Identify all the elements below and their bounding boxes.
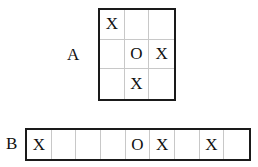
strip-b: X O X X [25,128,251,161]
strip-b-cell-7[interactable] [175,130,200,159]
grid-a: X O X X [98,8,176,101]
grid-a-cell-r1c1[interactable]: X [100,10,125,40]
strip-b-cell-4[interactable] [101,130,126,159]
strip-b-cell-2[interactable] [52,130,77,159]
strip-b-cell-3[interactable] [76,130,101,159]
strip-b-cell-9[interactable] [224,130,249,159]
grid-a-cell-r3c1[interactable] [100,69,125,99]
grid-a-cell-r3c3[interactable] [149,69,174,99]
strip-b-cell-1[interactable]: X [27,130,52,159]
grid-a-cell-r1c3[interactable] [149,10,174,40]
grid-a-cell-r2c1[interactable] [100,40,125,70]
strip-b-cell-5[interactable]: O [126,130,151,159]
grid-a-cell-r3c2[interactable]: X [125,69,150,99]
grid-a-cell-r1c2[interactable] [125,10,150,40]
strip-b-label: B [6,135,17,152]
grid-a-cell-r2c2[interactable]: O [125,40,150,70]
grid-a-cell-r2c3[interactable]: X [149,40,174,70]
strip-b-cell-8[interactable]: X [200,130,225,159]
strip-b-cell-6[interactable]: X [150,130,175,159]
grid-a-label: A [67,46,79,63]
